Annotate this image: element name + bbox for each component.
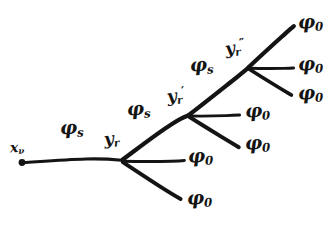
internal-line-2-label: φs: [126, 98, 151, 122]
external-line-v2-downright: [189, 117, 239, 147]
external-line-v1-downright-label-base: φ: [186, 186, 204, 209]
external-line-v1-downright-label: φ0: [186, 187, 212, 210]
external-line-v2-right-label-base: φ: [244, 99, 263, 122]
external-line-v3-downright: [249, 69, 291, 95]
internal-line-3-label-base: φ: [189, 53, 208, 76]
internal-line-1-label: φs: [59, 117, 83, 140]
internal-line-2-label-base: φ: [126, 97, 145, 120]
external-line-v3-right-label-base: φ: [297, 52, 315, 75]
external-line-v3-upright-label-subscript: 0: [315, 20, 324, 34]
vertex-3-label: yr″: [224, 36, 248, 59]
internal-line-1-label-subscript: s: [77, 126, 84, 140]
internal-line-v1-v2: [122, 116, 188, 160]
external-line-v3-upright-label-base: φ: [297, 10, 315, 33]
external-line-v2-downright-label-base: φ: [244, 131, 262, 154]
external-line-v3-downright-label-base: φ: [297, 81, 315, 104]
external-line-v3-downright-label: φ0: [297, 82, 323, 105]
external-line-v1-downright-label-subscript: 0: [204, 196, 213, 210]
vertex-2-label: yr′: [166, 85, 187, 107]
external-line-v1-right: [123, 161, 184, 162]
source-label-subscript: ν: [18, 146, 25, 156]
internal-line-2-label-subscript: s: [144, 106, 152, 120]
vertex-1-label: yr: [103, 128, 120, 149]
external-line-v3-upright: [249, 26, 294, 67]
vertex-1-label-subscript: r: [113, 136, 120, 149]
internal-line-3-label: φs: [189, 54, 214, 78]
external-line-v3-right: [249, 68, 293, 69]
external-line-v3-right-label-subscript: 0: [315, 62, 324, 76]
tree-diagram-svg: [0, 0, 331, 225]
external-line-v1-right-label-subscript: 0: [205, 154, 214, 168]
external-line-v2-right-label-subscript: 0: [262, 108, 271, 123]
figure-canvas: xν yr yr′ yr″ φs φs φs φ0 φ0 φ0 φ0 φ0: [0, 0, 331, 225]
source-label: xν: [9, 140, 24, 157]
external-line-v3-upright-label: φ0: [297, 11, 323, 34]
external-line-v3-right-label: φ0: [297, 53, 323, 76]
external-line-v2-downright-label: φ0: [244, 132, 270, 155]
internal-line-3-label-subscript: s: [207, 62, 215, 76]
external-line-v1-downright: [123, 162, 181, 199]
internal-line-1-label-base: φ: [59, 116, 77, 139]
external-line-v2-right-label: φ0: [244, 100, 270, 124]
external-line-v2-downright-label-subscript: 0: [262, 141, 271, 155]
internal-line-source-v1: [24, 159, 122, 163]
external-line-v3-downright-label-subscript: 0: [315, 91, 324, 105]
external-line-v2-right: [189, 115, 239, 116]
external-line-v1-right-label-base: φ: [187, 144, 205, 167]
external-line-v1-right-label: φ0: [187, 145, 213, 168]
